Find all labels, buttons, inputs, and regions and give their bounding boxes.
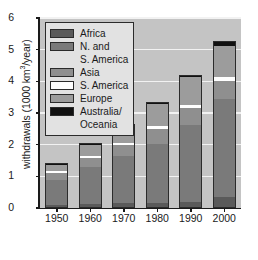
x-tick-mark [123, 208, 125, 212]
legend-swatch-icon [50, 94, 74, 103]
legend-item-continuation: S. America [50, 53, 128, 66]
legend-swatch-icon [50, 29, 74, 38]
legend-item[interactable]: Europe [50, 92, 128, 105]
legend-label: Africa [80, 27, 106, 40]
x-tick-mark [157, 208, 159, 212]
bar-segment-africa [113, 203, 134, 207]
legend-item[interactable]: Africa [50, 27, 128, 40]
bar-segment-africa [147, 203, 168, 207]
y-tick-label: 3 [0, 106, 14, 118]
bar-slot [208, 18, 242, 208]
y-axis-label-suffix: /year) [20, 39, 32, 65]
bar-segment-n-and-s-america [46, 180, 67, 205]
chart-figure: withdrawals (1000 km3/year) 0123456 1950… [0, 0, 258, 260]
bar-segment-africa [180, 202, 201, 207]
bar-slot [174, 18, 208, 208]
legend-label: N. and [80, 40, 109, 53]
bar-segment-asia [113, 145, 134, 156]
legend-item[interactable]: Asia [50, 66, 128, 79]
bar-segment-n-and-s-america [214, 99, 235, 197]
bar-segment-asia [180, 108, 201, 125]
stacked-bar[interactable] [79, 143, 102, 208]
bar-segment-n-and-s-america [147, 144, 168, 203]
bar-segment-europe [180, 77, 201, 105]
bar-segment-asia [46, 173, 67, 180]
bar-segment-africa [46, 205, 67, 207]
legend-label: Australia/ [80, 105, 122, 118]
x-tick-mark [190, 208, 192, 212]
bar-segment-europe [214, 46, 235, 78]
bar-segment-europe [147, 104, 168, 126]
y-tick-label: 4 [0, 74, 14, 86]
stacked-bar[interactable] [213, 41, 236, 208]
bar-segment-asia [80, 158, 101, 168]
bar-segment-africa [80, 204, 101, 207]
legend-swatch-spacer [50, 55, 74, 64]
legend-item-continuation: Oceania [50, 118, 128, 131]
stacked-bar[interactable] [146, 102, 169, 208]
x-tick-mark [56, 208, 58, 212]
legend-label-line2: S. America [80, 53, 128, 66]
y-axis-label-prefix: withdrawals (1000 km [20, 70, 32, 170]
y-axis-label: withdrawals (1000 km3/year) [19, 17, 32, 192]
y-tick-label: 2 [0, 138, 14, 150]
x-tick-mark [224, 208, 226, 212]
legend-label-line2: Oceania [80, 118, 117, 131]
legend-swatch-spacer [50, 120, 74, 129]
bar-segment-asia [214, 81, 235, 99]
legend-item[interactable]: Australia/ [50, 105, 128, 118]
bar-slot [141, 18, 175, 208]
x-tick-label: 2000 [204, 212, 244, 224]
bar-segment-n-and-s-america [80, 167, 101, 204]
stacked-bar[interactable] [112, 124, 135, 208]
legend-swatch-icon [50, 42, 74, 51]
bar-segment-africa [214, 197, 235, 207]
chart-legend: AfricaN. andS. AmericaAsiaS. AmericaEuro… [45, 22, 134, 136]
legend-label: Europe [80, 92, 112, 105]
bar-segment-n-and-s-america [180, 125, 201, 202]
stacked-bar[interactable] [45, 163, 68, 208]
bar-segment-asia [147, 129, 168, 144]
y-axis-label-exponent: 3 [19, 66, 26, 70]
bar-segment-europe [80, 145, 101, 155]
y-tick-label: 5 [0, 43, 14, 55]
legend-label: Asia [80, 66, 99, 79]
legend-swatch-icon [50, 68, 74, 77]
x-tick-mark [90, 208, 92, 212]
y-tick-label: 6 [0, 11, 14, 23]
y-tick-label: 0 [0, 201, 14, 213]
legend-swatch-icon [50, 107, 74, 116]
legend-swatch-icon [50, 81, 74, 90]
legend-label: S. America [80, 79, 128, 92]
y-tick-label: 1 [0, 169, 14, 181]
legend-item[interactable]: N. and [50, 40, 128, 53]
legend-item[interactable]: S. America [50, 79, 128, 92]
bar-segment-n-and-s-america [113, 156, 134, 203]
stacked-bar[interactable] [179, 75, 202, 208]
